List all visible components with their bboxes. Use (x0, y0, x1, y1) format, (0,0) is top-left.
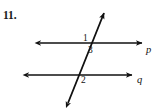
geometry-figure: 11. 1 3 2 p q (0, 0, 163, 108)
transversal-stroke (68, 13, 104, 103)
angle-label-2: 2 (81, 75, 86, 85)
angle-label-1: 1 (83, 33, 88, 43)
angle-label-3: 3 (88, 45, 93, 55)
parallel-lines-transversal-diagram (0, 0, 163, 108)
line-label-q: q (137, 74, 142, 85)
line-label-p: p (146, 44, 151, 55)
